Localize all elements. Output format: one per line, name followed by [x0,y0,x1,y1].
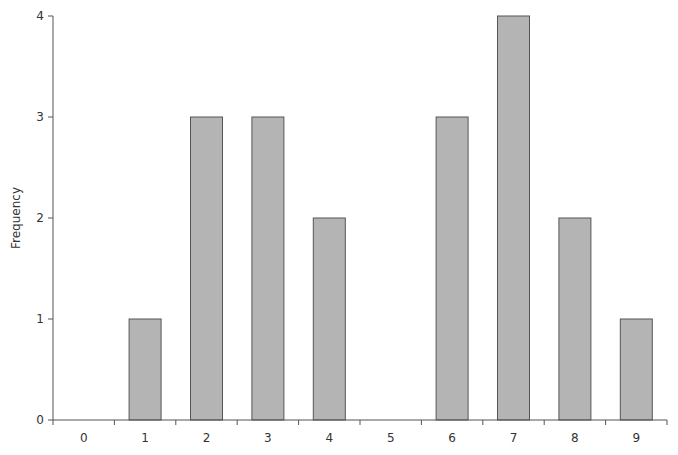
x-axis: 0123456789 [53,420,667,445]
y-tick-label: 1 [36,312,44,326]
x-tick-label: 1 [141,431,149,445]
x-tick-label: 8 [571,431,579,445]
x-tick-label: 2 [203,431,211,445]
y-axis-title: Frequency [9,187,23,249]
x-tick-label: 7 [510,431,518,445]
x-tick-label: 9 [632,431,640,445]
bar-1 [129,319,161,420]
bar-8 [559,218,591,420]
y-axis: 01234 [36,9,53,427]
bar-3 [252,117,284,420]
y-tick-label: 0 [36,413,44,427]
x-tick-label: 3 [264,431,272,445]
y-tick-label: 3 [36,110,44,124]
bar-4 [313,218,345,420]
x-tick-label: 4 [325,431,333,445]
x-tick-label: 5 [387,431,395,445]
histogram-chart: 01234 0123456789 Frequency [0,0,678,455]
y-tick-label: 2 [36,211,44,225]
bar-9 [620,319,652,420]
bars-group [129,16,652,420]
x-tick-label: 0 [80,431,88,445]
bar-2 [191,117,223,420]
bar-6 [436,117,468,420]
y-tick-label: 4 [36,9,44,23]
x-tick-label: 6 [448,431,456,445]
bar-7 [498,16,530,420]
